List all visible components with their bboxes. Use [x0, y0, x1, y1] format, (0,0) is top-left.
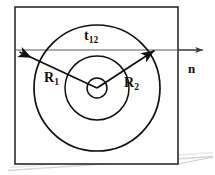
label-r1-subscript: 1	[54, 77, 59, 87]
diagram-figure: t12 R1 R2 n	[0, 0, 215, 175]
label-r1-base: R	[44, 70, 54, 85]
label-r2-subscript: 2	[134, 82, 139, 92]
label-t12-subscript: 12	[89, 35, 99, 45]
label-n: n	[188, 62, 195, 75]
label-r1: R1	[44, 71, 59, 87]
label-r2: R2	[124, 76, 139, 92]
diagram-canvas	[0, 0, 215, 175]
label-r2-base: R	[124, 75, 134, 90]
label-t12: t12	[84, 29, 98, 45]
